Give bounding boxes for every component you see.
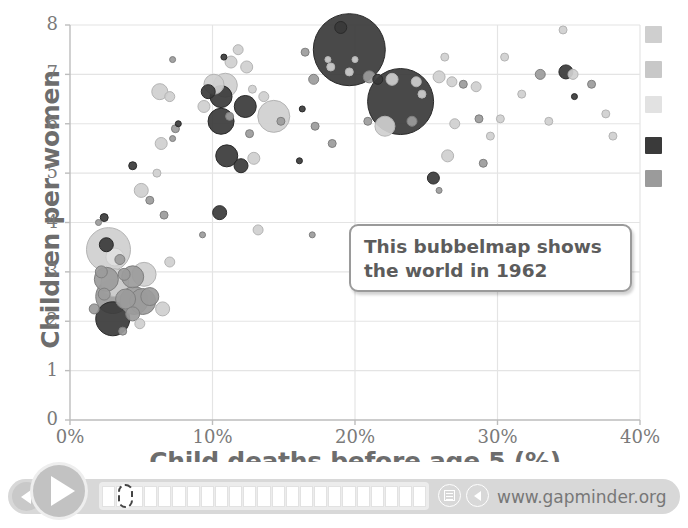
bubble[interactable] [141, 288, 159, 306]
bubble[interactable] [296, 158, 302, 164]
timeline-segment[interactable] [272, 486, 285, 507]
bubble[interactable] [309, 232, 315, 238]
bubble[interactable] [609, 132, 617, 140]
bubble[interactable] [442, 150, 454, 162]
bubble[interactable] [248, 85, 256, 93]
bubble[interactable] [246, 130, 254, 138]
timeline-segment[interactable] [144, 486, 157, 507]
timeline-segment[interactable] [300, 486, 313, 507]
list-icon-button[interactable] [438, 484, 461, 507]
bubble[interactable] [602, 110, 610, 118]
bubble[interactable] [89, 304, 99, 314]
bubble[interactable] [201, 85, 215, 99]
bubble[interactable] [459, 80, 467, 88]
bubble[interactable] [100, 214, 108, 222]
bubble[interactable] [241, 61, 253, 73]
bubble[interactable] [345, 68, 353, 76]
bubble[interactable] [155, 138, 167, 150]
bubble[interactable] [248, 152, 260, 164]
bubble[interactable] [375, 116, 395, 136]
bubble[interactable] [153, 169, 161, 177]
bubble[interactable] [99, 238, 113, 252]
bubble[interactable] [479, 159, 487, 167]
bubble[interactable] [165, 257, 175, 267]
bubble[interactable] [98, 288, 110, 300]
bubble[interactable] [518, 90, 526, 98]
bubble[interactable] [475, 115, 483, 123]
timeline-segment[interactable] [243, 486, 256, 507]
bubble[interactable] [135, 319, 145, 329]
bubble[interactable] [436, 187, 442, 193]
bubble[interactable] [96, 220, 102, 226]
bubble[interactable] [441, 53, 449, 61]
bubble[interactable] [535, 69, 545, 79]
bubble[interactable] [568, 69, 578, 79]
bubble[interactable] [327, 63, 335, 71]
bubble[interactable] [213, 206, 227, 220]
bubble[interactable] [221, 54, 227, 60]
bubble[interactable] [233, 45, 243, 55]
bubble[interactable] [309, 74, 319, 84]
bubble[interactable] [234, 95, 256, 117]
timeline-segment[interactable] [357, 486, 370, 507]
legend-swatch-region-2[interactable] [645, 61, 662, 78]
bubble[interactable] [277, 117, 285, 125]
bubble[interactable] [311, 122, 319, 130]
bubble[interactable] [471, 82, 481, 92]
bubble[interactable] [299, 106, 305, 112]
bubble[interactable] [198, 100, 210, 112]
timeline-segment[interactable] [229, 486, 242, 507]
bubble[interactable] [450, 119, 460, 129]
bubble[interactable] [253, 225, 263, 235]
timeline-segment[interactable] [257, 486, 270, 507]
bubble[interactable] [407, 116, 417, 126]
bubble[interactable] [134, 183, 148, 197]
region-legend[interactable] [645, 0, 688, 200]
timeline-segment[interactable] [158, 486, 171, 507]
bubble[interactable] [588, 80, 596, 88]
timeline-segment[interactable] [385, 486, 398, 507]
bubble[interactable] [116, 289, 136, 309]
timeline-segment[interactable] [328, 486, 341, 507]
bubble[interactable] [170, 57, 176, 63]
bubble[interactable] [165, 92, 175, 102]
timeline-segment[interactable] [371, 486, 384, 507]
bubble[interactable] [427, 172, 439, 184]
legend-swatch-region-5[interactable] [645, 170, 662, 187]
timeline-handle[interactable] [118, 484, 133, 508]
bubble[interactable] [129, 162, 137, 170]
bubble[interactable] [160, 211, 168, 219]
bubble[interactable] [95, 266, 107, 278]
bubble[interactable] [115, 255, 125, 265]
bubble[interactable] [170, 136, 176, 142]
bubble[interactable] [200, 232, 206, 238]
timeline-segment[interactable] [413, 486, 426, 507]
bubble[interactable] [335, 21, 347, 33]
bubble[interactable] [146, 196, 154, 204]
bubble[interactable] [559, 26, 567, 34]
legend-swatch-region-4[interactable] [645, 137, 662, 154]
timeline-segment[interactable] [102, 486, 115, 507]
bubble[interactable] [118, 268, 130, 280]
timeline-segment[interactable] [172, 486, 185, 507]
bubble[interactable] [226, 112, 234, 120]
bubble[interactable] [364, 117, 372, 125]
timeline-segment[interactable] [187, 486, 200, 507]
play-button[interactable] [33, 465, 85, 517]
bubble[interactable] [486, 132, 494, 140]
speaker-icon-button[interactable] [466, 484, 489, 507]
bubble[interactable] [175, 121, 181, 127]
bubble[interactable] [386, 73, 398, 85]
timeline-segment[interactable] [286, 486, 299, 507]
legend-swatch-region-3[interactable] [645, 96, 662, 113]
bubble[interactable] [301, 48, 309, 56]
timeline-segment[interactable] [215, 486, 228, 507]
bubble[interactable] [501, 53, 509, 61]
bubble[interactable] [545, 117, 553, 125]
timeline-segment[interactable] [342, 486, 355, 507]
bubble[interactable] [373, 74, 383, 84]
timeline-segment[interactable] [201, 486, 214, 507]
year-timeline-slider[interactable] [99, 482, 429, 510]
timeline-segment[interactable] [399, 486, 412, 507]
timeline-segment[interactable] [314, 486, 327, 507]
